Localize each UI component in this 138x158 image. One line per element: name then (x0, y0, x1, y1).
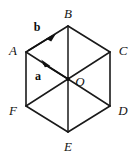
vertex-label-D: D (118, 104, 127, 117)
vertex-label-A: A (9, 44, 17, 57)
vector-b-arrowhead (46, 34, 56, 41)
vector-b (29, 34, 56, 51)
vector-label-b: b (34, 21, 41, 33)
vector-a (41, 60, 68, 79)
edge-D-E (68, 106, 110, 132)
vector-label-a: a (35, 70, 41, 82)
edge-B-C (68, 26, 110, 52)
edge-E-F (26, 106, 68, 132)
hexagon-diagram-canvas (0, 0, 138, 158)
vertex-label-E: E (64, 140, 72, 153)
vertex-label-C: C (119, 44, 128, 57)
center-label-O: O (75, 75, 84, 88)
vertex-label-F: F (9, 104, 17, 117)
vertex-label-B: B (64, 7, 72, 20)
hexagon-vector-figure: A B C D E F O a b (0, 0, 138, 158)
